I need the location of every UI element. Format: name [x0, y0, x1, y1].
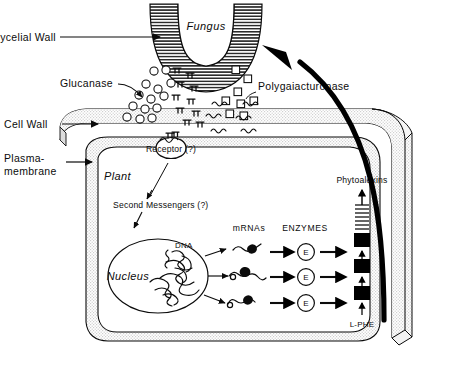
plasma-membrane-label-line1: Plasma- [4, 152, 45, 164]
mrnas-header: mRNAs [233, 223, 266, 233]
plasma-membrane [86, 137, 380, 341]
enzyme-symbol: E [303, 299, 309, 308]
phytoalexins-label: Phytoalexins [336, 175, 387, 185]
mycelial-wall-label: Mycelial Wall [0, 31, 56, 43]
enzyme-node: E [298, 295, 315, 312]
l-phe-label: L-PHE [350, 320, 375, 329]
fungus-label: Fungus [186, 20, 225, 32]
enzyme-node: E [298, 244, 315, 261]
plasma-membrane-callout: Plasma- membrane [4, 152, 92, 177]
plasma-membrane-label-line2: membrane [4, 165, 57, 177]
polygalacturonase-label: Polygaiacturonase [258, 80, 350, 92]
nucleus-label: Nucleus [107, 270, 150, 282]
intermediate-block [354, 233, 370, 247]
figure-canvas: Fungus [0, 0, 461, 365]
diagram-svg: Fungus [0, 0, 461, 365]
enzymes-header: ENZYMES [282, 223, 328, 233]
plant-label: Plant [104, 170, 132, 182]
cell-wall-label: Cell Wall [4, 118, 48, 130]
glucanase-label: Glucanase [60, 77, 113, 89]
enzyme-symbol: E [303, 273, 309, 282]
mycelial-wall-callout: Mycelial Wall [0, 31, 160, 43]
enzyme-node: E [298, 269, 315, 286]
intermediate-block [354, 259, 370, 273]
receptor-label: Receptor (?) [146, 144, 196, 154]
dna-label: DNA [175, 241, 193, 250]
glucanase-callout: Glucanase [60, 77, 142, 97]
multistep-arrow-icon [355, 205, 369, 229]
second-messengers-label: Second Messengers (?) [113, 200, 208, 210]
enzyme-symbol: E [303, 248, 309, 257]
intermediate-block [354, 286, 370, 300]
